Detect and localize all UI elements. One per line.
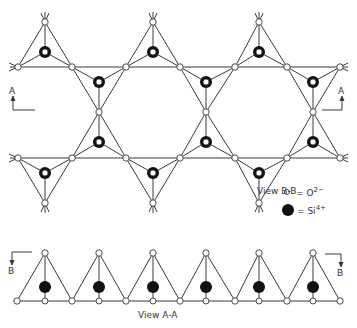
legend-oxygen-text: = O2− [296, 186, 324, 198]
section-label-b-left: B [8, 266, 14, 276]
lower-chain-bonds [17, 253, 340, 301]
section-arrow-a-left [11, 96, 35, 110]
legend-silicon-text: = Si4+ [297, 204, 326, 216]
view-a-a-label: View A-A [138, 310, 177, 320]
section-label-b-right: B [337, 268, 343, 278]
upper-sheet-bonds [9, 12, 348, 213]
section-arrow-a-right [322, 96, 344, 110]
lower-silicon-atoms [39, 281, 319, 293]
view-b-b-label: View B-B [257, 186, 297, 196]
silicate-structure-diagram: A A B B View B-B View A-A = O2− = Si4+ [0, 0, 357, 328]
section-arrow-b-left [10, 252, 32, 265]
section-label-a-left: A [9, 86, 15, 96]
section-label-a-right: A [338, 86, 344, 96]
legend-silicon-icon [282, 204, 294, 216]
diagram-canvas [0, 0, 357, 328]
section-arrow-b-right [325, 254, 343, 267]
lower-oxygen-atoms [14, 250, 343, 304]
upper-oxygen-atoms [15, 19, 343, 206]
